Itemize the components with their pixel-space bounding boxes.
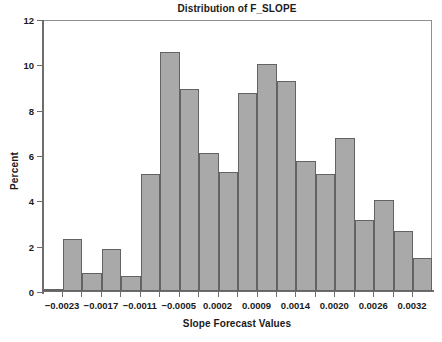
histogram-bar [121,276,140,291]
x-tick-mark [179,292,180,297]
histogram-bar [238,93,257,291]
histogram-bar [199,153,218,291]
x-minor-tick-mark [393,292,394,297]
y-axis-title: Percent [9,131,20,211]
y-tick-label: 2 [29,241,34,252]
histogram-figure: Distribution of F_SLOPE Percent 02468101… [0,0,442,342]
y-tick-label: 10 [23,60,34,71]
histogram-bar [82,273,101,291]
histogram-bar [355,220,374,291]
x-minor-tick-mark [276,292,277,297]
x-tick-mark [140,292,141,297]
plot-area [42,20,432,292]
x-tick-mark [62,292,63,297]
y-tick-label: 0 [29,287,34,298]
y-tick-label: 4 [29,196,34,207]
histogram-bar [394,231,413,291]
histogram-bar [335,138,354,291]
histogram-bar [277,81,296,291]
x-tick-label: 0.0032 [398,300,427,311]
histogram-bar [102,249,121,291]
x-tick-label: 0.0002 [203,300,232,311]
x-tick-mark [295,292,296,297]
bar-series [43,19,433,291]
y-tick-label: 8 [29,105,34,116]
x-minor-tick-mark [198,292,199,297]
y-tick-label: 12 [23,15,34,26]
histogram-bar [296,161,315,291]
x-minor-tick-mark [120,292,121,297]
x-tick-mark [218,292,219,297]
histogram-bar [180,89,199,291]
histogram-bar [374,200,393,291]
histogram-bar [160,52,179,291]
y-axis: Percent 024681012 [0,0,42,342]
x-tick-label: −0.0011 [123,300,157,311]
histogram-bar [219,172,238,291]
x-tick-mark [373,292,374,297]
x-minor-tick-mark [315,292,316,297]
x-tick-label: 0.0020 [320,300,349,311]
caption-remnant [2,332,242,342]
x-tick-mark [334,292,335,297]
x-tick-label: −0.0005 [161,300,196,311]
page-title: Distribution of F_SLOPE [42,3,432,14]
x-minor-tick-mark [81,292,82,297]
x-tick-label: −0.0017 [84,300,119,311]
x-minor-tick-mark [237,292,238,297]
x-tick-label: 0.0026 [359,300,388,311]
x-tick-mark [412,292,413,297]
histogram-bar [141,174,160,291]
x-tick-label: 0.0014 [281,300,310,311]
histogram-bar [257,64,276,291]
x-tick-label: 0.0009 [242,300,271,311]
x-tick-label: −0.0023 [45,300,80,311]
histogram-bar [413,258,432,291]
x-tick-mark [101,292,102,297]
x-tick-mark [257,292,258,297]
x-axis-title: Slope Forecast Values [42,318,432,329]
histogram-bar [63,239,82,291]
x-minor-tick-mark [159,292,160,297]
histogram-bar [316,174,335,291]
y-tick-label: 6 [29,151,34,162]
histogram-bar [44,289,63,291]
x-minor-tick-mark [354,292,355,297]
